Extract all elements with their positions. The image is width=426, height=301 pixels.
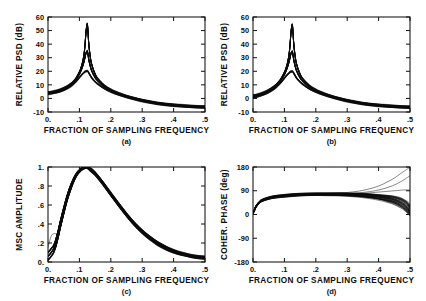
x-tick-label-d-5: .5: [407, 265, 413, 274]
x-tick-label-d-1: .1: [281, 265, 287, 274]
figure-four-panel-spectral-analysis: 0..1.2.3.4.5-100102030405060FRACTION OF …: [0, 0, 426, 301]
x-tick-label-d-4: .4: [376, 265, 383, 274]
series-d-0: [253, 168, 410, 213]
y-tick-label-d-0: -180: [234, 258, 249, 267]
y-tick-label-d-3: 90: [241, 186, 249, 195]
x-axis-label-d: FRACTION OF SAMPLING FREQUENCY: [249, 276, 415, 285]
x-tick-label-d-2: .2: [313, 265, 319, 274]
panel-caption-d: (d): [327, 287, 337, 296]
plot-frame-d: [253, 167, 410, 262]
y-tick-label-d-4: 180: [237, 163, 249, 172]
x-tick-label-d-3: .3: [344, 265, 350, 274]
x-tick-label-d-0: 0.: [250, 265, 256, 274]
y-tick-label-d-2: 0: [245, 210, 249, 219]
y-tick-label-d-1: -90: [238, 234, 249, 243]
plot-curves-d: [253, 168, 410, 216]
y-axis-label-d: COHER. PHASE (deg): [220, 169, 229, 260]
